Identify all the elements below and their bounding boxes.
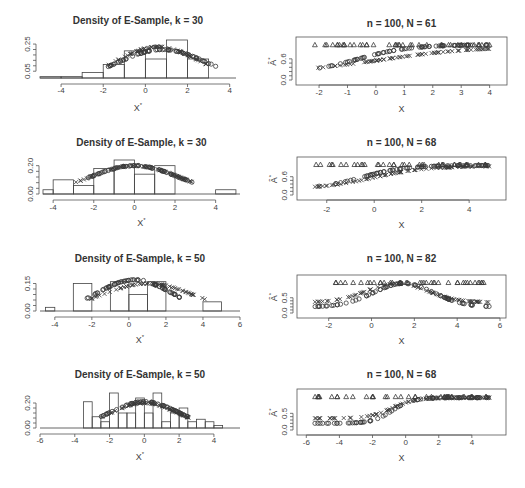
y-tick-label: 0.5 [280,292,289,304]
x-tick-label: 0 [369,321,374,330]
x-tick-label: 2 [437,438,442,447]
panel-scatter-1: n = 100, N = 61XÂ*-2-1012340.00.6 [267,18,507,114]
x-tick-label: 0 [403,438,408,447]
y-tick-label: 0.15 [23,275,32,291]
x-tick-label: 2 [173,203,178,212]
histogram-bar [46,307,55,311]
panel-title: Density of E-Sample, k = 50 [75,253,206,264]
figure-canvas: Density of E-Sample, k = 30X*-4-20240.05… [0,0,525,488]
y-axis-label: Â* [268,292,279,301]
panel-scatter-4: n = 100, N = 68XÂ*-6-4-20240.00.5 [268,369,506,463]
histogram-bar [40,77,61,78]
histogram-bar [129,295,148,312]
x-axis-label: X [398,336,404,346]
histogram-bar [127,413,136,428]
x-tick-label: -2 [315,88,323,97]
x-axis-label: X [398,453,404,463]
x-axis-label: X [398,104,404,114]
y-tick-label: 0.6 [280,171,289,183]
x-tick-label: 4 [470,438,475,447]
y-tick-label: 0.00 [23,303,32,319]
histogram-bar [61,77,82,78]
histogram-bar [153,393,162,428]
histogram-bar [92,417,101,428]
x-tick-label: 3 [459,88,464,97]
x-tick-label: 6 [498,321,503,330]
panel-hist-4: Density of E-Sample, k = 50X*-6-4-20240.… [23,369,240,462]
x-tick-label: 2 [431,88,436,97]
x-tick-label: 2 [412,321,417,330]
x-tick-label: -2 [100,86,108,95]
x-tick-label: 2 [185,86,190,95]
panel-hist-3: Density of E-Sample, k = 50X*-4-202460.0… [23,253,243,345]
histogram-bar [43,190,53,194]
panel-hist-1: Density of E-Sample, k = 30X*-4-20240.05… [23,15,236,113]
x-tick-label: 4 [455,321,460,330]
x-axis-label: X* [136,334,145,345]
x-tick-label: 0 [372,205,377,214]
y-tick-label: 0.25 [23,36,32,52]
x-axis-label: X [398,220,404,230]
x-tick-label: 2 [177,436,182,445]
histogram-bar [101,422,110,428]
y-tick-label: 0.0 [280,307,289,319]
x-tick-label: -2 [106,436,114,445]
histogram-bar [53,180,73,194]
x-tick-label: 0 [143,86,148,95]
histogram-bar [216,190,236,194]
histogram-bar [197,419,206,428]
histogram-bar [83,402,92,428]
histogram-bar [134,174,154,194]
x-tick-label: 4 [201,320,206,329]
x-tick-label: 0 [142,436,147,445]
x-tick-label: -4 [71,436,79,445]
panel-title: n = 100, N = 68 [367,137,437,148]
y-axis-label: Â* [267,57,278,66]
x-tick-label: 4 [467,205,472,214]
x-tick-label: 0 [132,203,137,212]
x-tick-label: -2 [88,320,96,329]
x-tick-label: 0 [374,88,379,97]
histogram-bar [203,302,222,311]
y-tick-label: 0.5 [280,407,289,419]
histogram-bar [118,413,127,428]
x-tick-label: -2 [90,203,98,212]
histogram-bar [166,40,187,78]
x-axis-label: X* [136,451,145,462]
x-tick-label: -4 [51,320,59,329]
x-tick-label: -2 [369,438,377,447]
x-axis-label: X* [137,217,146,228]
panel-title: n = 100, N = 82 [367,253,437,264]
panel-scatter-3: n = 100, N = 82XÂ*-202460.00.5 [268,253,506,346]
histogram-bar [188,422,197,428]
panel-title: n = 100, N = 68 [367,369,437,380]
x-tick-label: 6 [238,320,243,329]
x-tick-label: -2 [325,321,333,330]
y-tick-label: 0.05 [23,63,32,79]
panel-title: Density of E-Sample, k = 30 [73,15,204,26]
y-axis-label: Â* [268,174,279,183]
panel-title: Density of E-Sample, k = 30 [76,137,207,148]
x-tick-label: 2 [164,320,169,329]
y-tick-label: 0.6 [279,53,288,65]
histogram-bar [205,422,214,428]
x-tick-label: -6 [303,438,311,447]
y-tick-label: 0.0 [279,74,288,86]
x-tick-label: -4 [336,438,344,447]
x-tick-label: 4 [487,88,492,97]
x-tick-label: 2 [419,205,424,214]
histogram-bar [73,186,93,195]
y-tick-label: 0.0 [280,189,289,201]
y-tick-label: 0.20 [26,157,35,173]
x-tick-label: 1 [402,88,407,97]
y-tick-label: 0.20 [23,395,32,411]
x-tick-label: -6 [36,436,44,445]
x-tick-label: -4 [58,86,66,95]
panel-title: n = 100, N = 61 [367,18,437,29]
histogram-bar [162,422,171,428]
y-tick-label: 0.00 [23,420,32,436]
panel-scatter-2: n = 100, N = 68XÂ*-20240.00.6 [268,137,506,230]
panel-title: Density of E-Sample, k = 50 [75,369,206,380]
x-tick-label: -4 [50,203,58,212]
histogram-bar [145,59,166,78]
